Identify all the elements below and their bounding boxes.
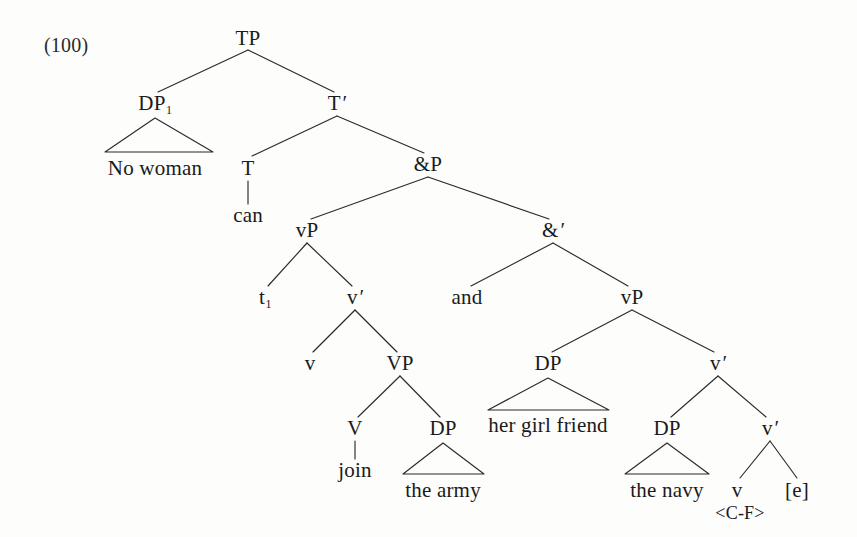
branch-andp-vp [311, 177, 428, 219]
branch-vbar2-vbar3 [718, 376, 766, 417]
prime-mark: ′ [773, 416, 778, 440]
node-trace-label: t [259, 285, 265, 309]
branch-andp-andbar [428, 177, 549, 219]
branch-vbar2-dp-navy [671, 376, 718, 417]
node-empty-category: [e] [785, 480, 809, 501]
triangle-her-girl-friend [488, 378, 609, 410]
branch-vp2-dp [552, 310, 632, 352]
node-and-p: &P [414, 154, 442, 175]
branch-vbar-v [313, 310, 355, 352]
node-dp-navy: DP [653, 418, 680, 439]
prime-mark: ′ [721, 351, 726, 375]
triangle-no-woman [105, 118, 213, 152]
node-v-bar-left-label: v [347, 285, 358, 309]
terminal-the-army: the army [405, 480, 481, 501]
node-dp-girlfriend: DP [534, 353, 561, 374]
branch-vbar3-empty [770, 441, 797, 478]
node-t-bar: T′ [328, 93, 346, 114]
terminal-join: join [338, 460, 371, 481]
terminal-her-girl-friend: her girl friend [488, 415, 608, 436]
triangle-the-army [403, 443, 484, 474]
branch-vp2-vbar [632, 310, 714, 352]
node-t: T [241, 158, 254, 179]
node-v-bar-right-lower-label: v [762, 416, 773, 440]
node-tp: TP [236, 28, 261, 49]
node-V: V [347, 418, 362, 439]
node-vp-right: vP [621, 287, 644, 308]
branch-tp-dp1 [158, 50, 248, 92]
node-vp-left: vP [296, 220, 319, 241]
node-dp1-label: DP [138, 91, 165, 115]
branch-vp-trace [268, 243, 307, 286]
branch-tbar-t [252, 116, 337, 156]
annotation-contrastive-focus: <C-F> [715, 504, 764, 522]
node-and-bar-label: & [542, 218, 559, 242]
triangle-the-navy [625, 443, 709, 474]
tree-branches [0, 0, 857, 537]
node-trace-index: 1 [265, 297, 271, 311]
branch-tbar-andp [337, 116, 424, 153]
node-v-left: v [305, 353, 316, 374]
terminal-the-navy: the navy [630, 480, 703, 501]
branch-VP-dp-army [400, 376, 440, 417]
node-v-bar-right: v′ [710, 353, 726, 374]
node-dp1-index: 1 [166, 103, 172, 117]
prime-mark: ′ [341, 91, 346, 115]
branch-tp-tbar [248, 50, 334, 92]
node-and-bar: &′ [542, 220, 564, 241]
branch-andbar-vp [553, 243, 628, 286]
prime-mark: ′ [358, 285, 363, 309]
node-trace: t1 [259, 287, 271, 308]
node-v-bar-right-lower: v′ [762, 418, 778, 439]
example-number: (100) [44, 35, 88, 55]
terminal-and: and [452, 287, 483, 308]
branch-andbar-and [471, 243, 553, 286]
figure-canvas: (100) TP DP1 T′ No woman T can &P vP &′ … [0, 0, 857, 537]
node-v-right: v [732, 480, 743, 501]
prime-mark: ′ [559, 218, 564, 242]
branch-vp-vbar [307, 243, 352, 286]
node-dp-army: DP [429, 418, 456, 439]
node-v-bar-left: v′ [347, 287, 363, 308]
node-t-bar-label: T [328, 91, 341, 115]
node-dp1: DP1 [138, 93, 171, 114]
branch-VP-V [358, 376, 400, 417]
terminal-can: can [233, 205, 263, 226]
node-v-bar-right-label: v [710, 351, 721, 375]
branch-vbar-VP [355, 310, 397, 352]
terminal-no-woman: No woman [108, 158, 202, 179]
node-VP: VP [386, 353, 413, 374]
branch-vbar3-v [740, 441, 770, 478]
